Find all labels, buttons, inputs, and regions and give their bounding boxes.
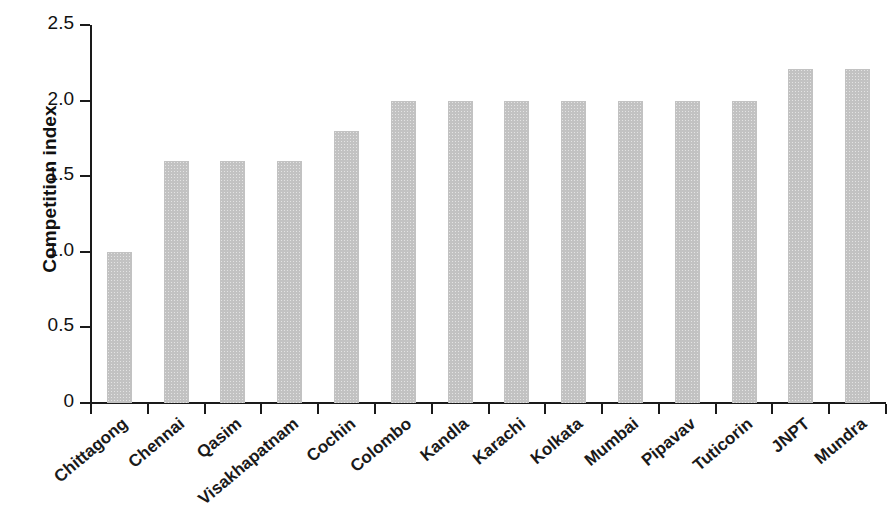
y-tick-label: 1.5 (14, 163, 74, 185)
bar (845, 69, 870, 403)
bar (220, 161, 245, 403)
x-tick-mark (544, 404, 546, 414)
bar (164, 161, 189, 403)
x-tick-label: Chittagong (0, 414, 132, 516)
y-tick-label: 2.0 (14, 88, 74, 110)
y-tick-label: 1.0 (14, 239, 74, 261)
x-tick-mark (601, 404, 603, 414)
y-tick-mark (80, 402, 90, 404)
bar (448, 101, 473, 403)
plot-area (91, 25, 886, 403)
bar (107, 252, 132, 403)
y-tick-label: 2.5 (14, 12, 74, 34)
bar (618, 101, 643, 403)
x-tick-mark (658, 404, 660, 414)
bar (391, 101, 416, 403)
bar (277, 161, 302, 403)
x-tick-mark (260, 404, 262, 414)
bar (334, 131, 359, 403)
x-tick-mark (715, 404, 717, 414)
y-tick-label: 0.5 (14, 314, 74, 336)
x-tick-mark (374, 404, 376, 414)
x-tick-mark (431, 404, 433, 414)
y-tick-mark (80, 175, 90, 177)
x-tick-mark (147, 404, 149, 414)
y-tick-mark (80, 24, 90, 26)
x-tick-label-text: JNPT (768, 414, 814, 457)
y-tick-label: 0 (14, 390, 74, 412)
x-tick-mark (828, 404, 830, 414)
bar (788, 69, 813, 403)
x-tick-label-text: Mundra (811, 414, 871, 469)
bar (732, 101, 757, 403)
x-tick-mark (771, 404, 773, 414)
x-tick-label-text: Qasim (193, 414, 246, 463)
x-tick-mark (317, 404, 319, 414)
y-tick-mark (80, 326, 90, 328)
bar (561, 101, 586, 403)
y-tick-mark (80, 100, 90, 102)
y-tick-mark (80, 251, 90, 253)
x-tick-mark (488, 404, 490, 414)
x-tick-mark (90, 404, 92, 414)
bar (504, 101, 529, 403)
x-tick-mark (204, 404, 206, 414)
bar (675, 101, 700, 403)
